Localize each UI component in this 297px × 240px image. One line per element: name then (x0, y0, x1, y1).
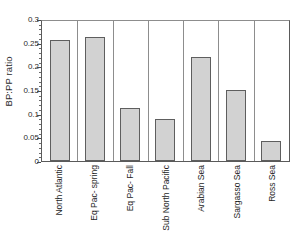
bar-cell (42, 21, 77, 161)
x-axis-label-cell: North Atlantic (41, 163, 77, 240)
x-axis-category-labels: North AtlanticEq Pac- springEq Pac- Fall… (41, 163, 290, 240)
x-axis-category-label: North Atlantic (54, 165, 63, 216)
y-axis-tick-label: 0.25 (23, 40, 39, 48)
y-axis-tick-labels: 00.050.10.150.20.250.3 (14, 0, 39, 180)
x-axis-category-label: Eq Pac- spring (90, 165, 99, 221)
bar-cell (254, 21, 289, 161)
x-axis-category-label: Eq Pac- Fall (125, 165, 134, 211)
y-axis-tick-label: 0.3 (28, 16, 39, 24)
y-axis-tick-label: 0.2 (28, 63, 39, 71)
x-axis-label-cell: Sargasso Sea (219, 163, 255, 240)
x-axis-category-label: Ross Sea (268, 165, 277, 202)
x-axis-category-label: Sub North Pacific (161, 165, 170, 231)
bar-cell (183, 21, 218, 161)
bar (50, 40, 70, 161)
x-axis-category-label: Arabian Sea (197, 165, 206, 212)
x-axis-label-cell: Ross Sea (254, 163, 290, 240)
y-axis-title-label: BP:PP ratio (3, 56, 14, 106)
x-axis-label-cell: Eq Pac- spring (77, 163, 113, 240)
y-axis-tick-label: 0.1 (28, 111, 39, 119)
bar-cell (148, 21, 183, 161)
bar-cell (218, 21, 253, 161)
bar (191, 57, 211, 161)
bar-cell (77, 21, 112, 161)
bar-chart: BP:PP ratio 00.050.10.150.20.250.3 North… (0, 0, 297, 240)
bar (85, 37, 105, 161)
x-axis-label-cell: Sub North Pacific (148, 163, 184, 240)
x-axis-category-label: Sargasso Sea (232, 165, 241, 218)
y-axis-tick-label: 0 (35, 158, 39, 166)
bar (155, 119, 175, 161)
bar (226, 90, 246, 161)
bar (261, 141, 281, 161)
bars-layer (42, 21, 289, 161)
bar (120, 108, 140, 161)
y-axis-tick-label: 0.05 (23, 134, 39, 142)
y-axis-tick-label: 0.15 (23, 87, 39, 95)
bar-cell (113, 21, 148, 161)
plot-area (41, 20, 290, 162)
x-axis-label-cell: Eq Pac- Fall (112, 163, 148, 240)
x-axis-label-cell: Arabian Sea (183, 163, 219, 240)
